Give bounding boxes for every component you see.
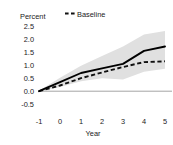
x-tick-label: 2 (100, 117, 104, 126)
y-tick-label: 2.5 (24, 22, 34, 31)
y-tick-label: 2.0 (24, 35, 34, 44)
line-chart: 2.5 2.0 1.5 1.0 0.5 0.0 -0.5 Percent -1 … (0, 0, 173, 145)
x-tick-label: -1 (36, 117, 43, 126)
y-axis-title: Percent (20, 12, 45, 21)
y-tick-label: 1.0 (24, 61, 34, 70)
y-tick-label: 1.5 (24, 48, 34, 57)
y-tick-label: 0.0 (24, 87, 34, 96)
y-tick-label: -0.5 (21, 100, 34, 109)
y-tick-label: 0.5 (24, 74, 34, 83)
x-axis-title: Year (86, 129, 101, 138)
x-tick-label: 0 (58, 117, 62, 126)
x-tick-label: 4 (142, 117, 146, 126)
x-tick-label: 5 (163, 117, 167, 126)
legend: Baseline (65, 10, 105, 19)
x-tick-label: 1 (79, 117, 83, 126)
x-tick-label: 3 (121, 117, 125, 126)
chart-container: 2.5 2.0 1.5 1.0 0.5 0.0 -0.5 Percent -1 … (0, 0, 173, 145)
legend-label-baseline: Baseline (77, 10, 105, 19)
